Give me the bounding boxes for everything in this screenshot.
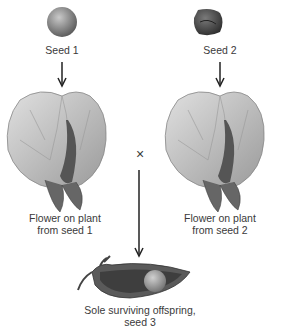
cross-symbol: × xyxy=(134,148,146,160)
flower-1-caption-line2: from seed 1 xyxy=(10,224,120,236)
offspring-caption-line2: seed 3 xyxy=(70,316,210,328)
arrow-down-icon xyxy=(135,170,143,256)
flower-2-caption-line2: from seed 2 xyxy=(165,224,275,236)
seed-1-label: Seed 1 xyxy=(32,44,92,56)
pea-pod-icon xyxy=(78,256,190,298)
arrow-down-icon xyxy=(216,62,224,86)
arrow-down-icon xyxy=(58,62,66,86)
round-seed-icon xyxy=(47,7,77,37)
offspring-caption: Sole surviving offspring, seed 3 xyxy=(70,304,210,328)
flower-2-caption-line1: Flower on plant xyxy=(165,212,275,224)
flower-2-caption: Flower on plant from seed 2 xyxy=(165,212,275,236)
flower-1-caption-line1: Flower on plant xyxy=(10,212,120,224)
flower-icon xyxy=(165,92,264,212)
flower-icon xyxy=(7,92,106,212)
flower-1-caption: Flower on plant from seed 1 xyxy=(10,212,120,236)
offspring-caption-line1: Sole surviving offspring, xyxy=(70,304,210,316)
seed-2-label: Seed 2 xyxy=(190,44,250,56)
wrinkled-seed-icon xyxy=(194,9,223,35)
